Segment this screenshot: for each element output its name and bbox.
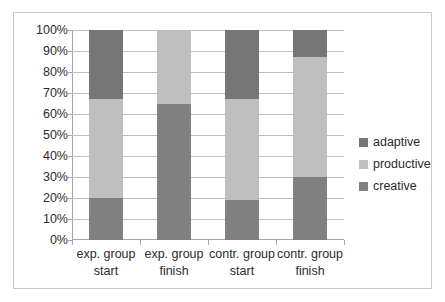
- bar-segment-productive[interactable]: [293, 57, 327, 177]
- stacked-bar[interactable]: [293, 30, 327, 240]
- x-axis-label: contr. groupfinish: [276, 246, 344, 280]
- x-axis-tick-mark: [276, 240, 277, 245]
- legend-swatch-icon: [359, 182, 368, 191]
- y-axis-tick-label: 30%: [24, 171, 68, 184]
- y-axis-tick-label: 10%: [24, 213, 68, 226]
- bar-group[interactable]: [140, 30, 208, 240]
- x-axis-label-line: exp. group: [140, 246, 208, 263]
- y-axis-tick-label: 100%: [24, 24, 68, 37]
- bar-group[interactable]: [72, 30, 140, 240]
- bar-segment-creative[interactable]: [225, 200, 259, 240]
- legend-label: productive: [373, 158, 431, 171]
- y-axis-tick-label: 0%: [24, 234, 68, 247]
- y-axis-tick-label: 80%: [24, 66, 68, 79]
- bar-segment-productive[interactable]: [89, 99, 123, 198]
- bar-segment-creative[interactable]: [293, 177, 327, 240]
- bar-segment-adaptive[interactable]: [89, 30, 123, 99]
- x-axis-labels: exp. groupstartexp. groupfinishcontr. gr…: [72, 246, 344, 286]
- x-axis-label-line: finish: [276, 263, 344, 280]
- y-axis-tick-label: 50%: [24, 129, 68, 142]
- y-axis-tick-label: 40%: [24, 150, 68, 163]
- stacked-bar[interactable]: [157, 30, 191, 240]
- legend-swatch-icon: [359, 160, 368, 169]
- legend-label: creative: [373, 180, 417, 193]
- x-axis-label-line: finish: [140, 263, 208, 280]
- y-axis-tick-label: 90%: [24, 45, 68, 58]
- x-axis-tick-mark: [140, 240, 141, 245]
- bar-group[interactable]: [208, 30, 276, 240]
- bar-segment-adaptive[interactable]: [293, 30, 327, 57]
- chart-frame: 100%90%80%70%60%50%40%30%20%10%0% exp. g…: [13, 12, 432, 289]
- stacked-bar[interactable]: [89, 30, 123, 240]
- x-axis-label: exp. groupfinish: [140, 246, 208, 280]
- legend-swatch-icon: [359, 138, 368, 147]
- x-axis-label: contr. groupstart: [208, 246, 276, 280]
- x-axis-label-line: exp. group: [72, 246, 140, 263]
- legend-label: adaptive: [373, 136, 420, 149]
- bar-group[interactable]: [276, 30, 344, 240]
- x-axis-label-line: contr. group: [208, 246, 276, 263]
- x-axis-label: exp. groupstart: [72, 246, 140, 280]
- y-axis-tick-label: 20%: [24, 192, 68, 205]
- y-axis: 100%90%80%70%60%50%40%30%20%10%0%: [20, 30, 68, 240]
- y-axis-tick-label: 60%: [24, 108, 68, 121]
- x-axis-tick-mark: [208, 240, 209, 245]
- bar-segment-adaptive[interactable]: [225, 30, 259, 99]
- x-axis-tick-mark: [72, 240, 73, 245]
- legend-item-creative[interactable]: creative: [359, 175, 431, 197]
- x-axis-label-line: start: [72, 263, 140, 280]
- x-axis-label-line: start: [208, 263, 276, 280]
- x-axis-label-line: contr. group: [276, 246, 344, 263]
- legend-item-productive[interactable]: productive: [359, 153, 431, 175]
- plot-area: [72, 30, 344, 240]
- bar-segment-creative[interactable]: [89, 198, 123, 240]
- legend-item-adaptive[interactable]: adaptive: [359, 131, 431, 153]
- bar-segment-productive[interactable]: [225, 99, 259, 200]
- chart-legend: adaptiveproductivecreative: [359, 131, 431, 197]
- y-axis-tick-label: 70%: [24, 87, 68, 100]
- bar-segment-creative[interactable]: [157, 104, 191, 241]
- bar-segment-productive[interactable]: [157, 30, 191, 104]
- x-axis-tick-mark: [344, 240, 345, 245]
- stacked-bar[interactable]: [225, 30, 259, 240]
